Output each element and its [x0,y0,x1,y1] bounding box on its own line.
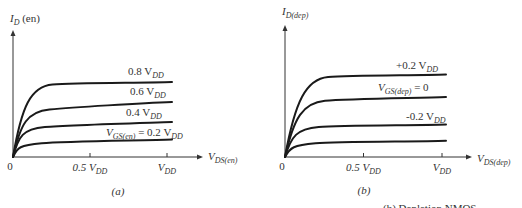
panel-b-x-axis-label: VDS(dep) [477,152,511,167]
panel-b-series-label: +0.2 VDD [396,59,438,74]
panel-b-curve [285,141,446,157]
figure-caption-fragment: ... (b) Depletion NMOS [372,202,477,208]
panel-a-x-axis-arrow [197,155,203,160]
panel-a-x-tick-label: VDD [158,161,177,176]
panel-a-origin-label: 0 [7,160,13,172]
panel-a-x-tick-label: 0.5 VDD [73,161,108,176]
panel-a-series-label: 0.6 VDD [130,85,166,100]
panel-b-series-label: -0.2 VDD [406,110,446,125]
panel-b-x-axis-arrow [466,155,472,160]
panel-b-y-axis-arrow [283,25,288,31]
panel-b-series-label: VGS(dep) = 0 [378,81,429,96]
panel-b-x-tick-label: VDD [433,161,452,176]
panel-a-series-label: 0.8 VDD [128,65,164,80]
panel-b-y-axis-label: ID(dep) [281,5,309,20]
panel-a-caption: (a) [112,185,125,198]
panel-a-y-axis-arrow [11,30,16,36]
chart-figure: ID (en)VDS(en)00.5 VDDVDD0.8 VDD0.6 VDD0… [0,0,522,208]
panel-b-origin-label: 0 [279,160,285,172]
panel-a-series-label: 0.4 VDD [126,106,162,121]
panel-a-y-axis-label: ID (en) [9,12,40,27]
panel-b-x-tick-label: 0.5 VDD [346,161,381,176]
panel-a-x-axis-label: VDS(en) [208,150,238,165]
panel-a-curve [13,140,172,158]
panel-a-series-label: VGS(en) = 0.2 VDD [106,126,183,141]
panel-b-curve [285,97,446,157]
panel-b-caption: (b) [358,184,371,197]
